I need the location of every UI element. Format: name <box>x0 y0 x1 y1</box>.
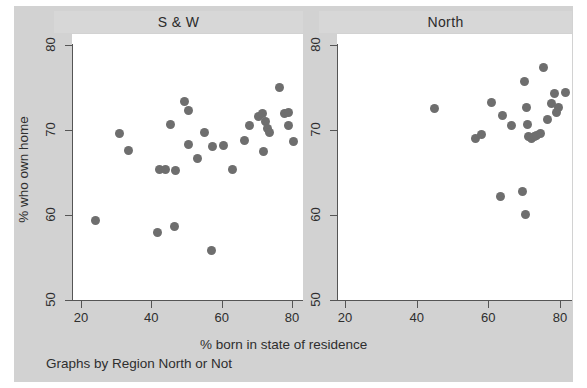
y-tick-label: 80 <box>43 34 58 56</box>
scatter-point <box>200 128 209 137</box>
y-tick <box>65 300 72 301</box>
panel-title-label: S & W <box>158 14 200 30</box>
scatter-point <box>518 187 527 196</box>
scatter-point <box>430 104 439 113</box>
y-tick-label: 60 <box>308 204 323 226</box>
x-axis-line-panel1 <box>337 300 572 301</box>
scatter-point <box>240 136 249 145</box>
scatter-point <box>561 88 570 97</box>
y-axis-line-panel1 <box>337 44 338 301</box>
y-tick-label: 80 <box>308 34 323 56</box>
y-tick-label: 50 <box>308 289 323 311</box>
y-tick <box>65 45 72 46</box>
x-tick-label: 80 <box>549 310 571 325</box>
panel-title-label: North <box>427 14 463 30</box>
y-tick <box>330 45 337 46</box>
scatter-point <box>523 120 532 129</box>
scatter-point <box>507 121 516 130</box>
y-tick <box>330 300 337 301</box>
scatter-point <box>536 129 545 138</box>
scatter-point <box>284 108 293 117</box>
scatter-point <box>487 98 496 107</box>
x-tick <box>417 301 418 308</box>
y-axis-line-panel0 <box>72 44 73 301</box>
x-tick <box>151 301 152 308</box>
scatter-point <box>498 111 507 120</box>
scatter-point <box>124 146 133 155</box>
y-tick-label: 60 <box>43 204 58 226</box>
scatter-point <box>496 192 505 201</box>
scatter-point <box>245 121 254 130</box>
scatter-point <box>207 246 216 255</box>
y-axis-title: % who own home <box>16 110 31 230</box>
y-tick <box>65 215 72 216</box>
scatter-point <box>208 142 217 151</box>
scatter-point <box>219 141 228 150</box>
scatter-point <box>259 147 268 156</box>
scatter-point <box>539 63 548 72</box>
y-tick-label: 70 <box>43 119 58 141</box>
x-axis-title: % born in state of residence <box>200 337 367 352</box>
chart-root: S & W 2040608050607080 North 20406080506… <box>0 0 587 388</box>
x-axis-line-panel0 <box>72 300 303 301</box>
scatter-point <box>275 83 284 92</box>
x-tick-label: 20 <box>334 310 356 325</box>
panel-header-north: North <box>319 11 572 33</box>
x-tick <box>292 301 293 308</box>
y-tick <box>330 215 337 216</box>
scatter-point <box>184 106 193 115</box>
scatter-point <box>543 115 552 124</box>
scatter-points-s-and-w <box>72 34 303 300</box>
scatter-point <box>477 130 486 139</box>
panel-header-s-and-w: S & W <box>54 11 303 33</box>
scatter-point <box>193 154 202 163</box>
scatter-point <box>289 137 298 146</box>
x-tick-label: 40 <box>406 310 428 325</box>
scatter-point <box>265 128 274 137</box>
scatter-point <box>521 210 530 219</box>
graph-note: Graphs by Region North or Not <box>46 356 232 371</box>
x-tick-label: 80 <box>281 310 303 325</box>
scatter-point <box>91 216 100 225</box>
scatter-point <box>228 165 237 174</box>
scatter-point <box>520 77 529 86</box>
x-tick-label: 60 <box>211 310 233 325</box>
scatter-point <box>284 121 293 130</box>
y-tick <box>330 130 337 131</box>
scatter-point <box>166 120 175 129</box>
scatter-point <box>522 103 531 112</box>
scatter-points-north <box>337 34 572 300</box>
x-tick <box>560 301 561 308</box>
scatter-point <box>180 97 189 106</box>
x-tick <box>222 301 223 308</box>
scatter-point <box>550 89 559 98</box>
x-tick <box>488 301 489 308</box>
scatter-point <box>184 140 193 149</box>
y-tick-label: 50 <box>43 289 58 311</box>
x-tick-label: 60 <box>477 310 499 325</box>
x-tick-label: 20 <box>70 310 92 325</box>
scatter-point <box>554 103 563 112</box>
x-tick <box>345 301 346 308</box>
scatter-point <box>171 166 180 175</box>
x-tick-label: 40 <box>140 310 162 325</box>
scatter-point <box>153 228 162 237</box>
scatter-point <box>115 129 124 138</box>
y-tick-label: 70 <box>308 119 323 141</box>
y-tick <box>65 130 72 131</box>
x-tick <box>81 301 82 308</box>
scatter-point <box>161 165 170 174</box>
scatter-point <box>170 222 179 231</box>
